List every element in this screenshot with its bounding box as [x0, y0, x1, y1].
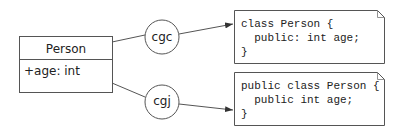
class-attribute: +age: int [24, 64, 80, 78]
code-line: public class Person { [241, 80, 380, 92]
diagram-canvas: Person +age: int cgc cgj class Person { … [0, 0, 395, 130]
code-line: class Person { [241, 18, 333, 30]
generator-cgc: cgc [145, 20, 179, 54]
uml-class-person: Person +age: int [20, 37, 113, 93]
generator-label: cgj [153, 94, 171, 108]
code-line: } [241, 46, 248, 58]
code-output-cpp: class Person { public: int age; } [235, 11, 385, 64]
arrow-cgj-to-code [179, 104, 233, 110]
connector-class-to-cgj [112, 83, 145, 97]
class-name: Person [46, 42, 86, 56]
code-output-java: public class Person { public int age; } [235, 73, 385, 126]
arrow-cgc-to-code [179, 24, 233, 34]
code-line: } [241, 108, 248, 120]
generator-label: cgc [152, 30, 173, 44]
code-line: public: int age; [241, 32, 360, 44]
generator-cgj: cgj [145, 85, 179, 119]
connector-class-to-cgc [112, 35, 145, 42]
code-line: public int age; [241, 94, 353, 106]
